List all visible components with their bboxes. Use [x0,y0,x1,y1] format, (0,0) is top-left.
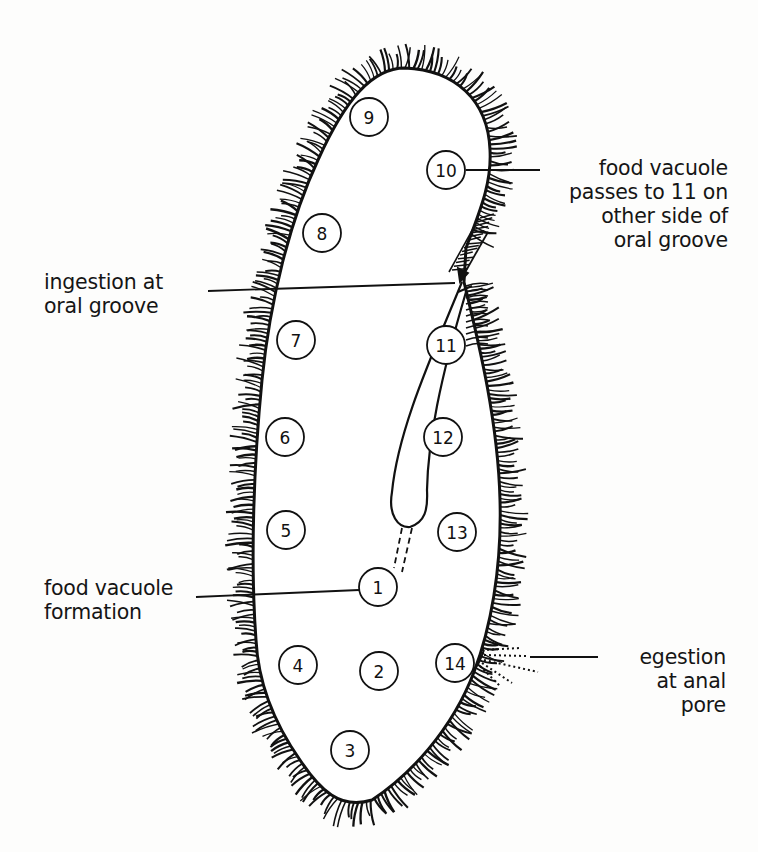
svg-text:3: 3 [345,741,356,761]
label-line: passes to 11 on [548,180,728,204]
svg-text:10: 10 [435,161,457,181]
label-line: formation [44,600,173,624]
anal-pore-egestion-icon [480,648,538,686]
label-line: ingestion at [44,270,163,294]
svg-text:8: 8 [317,224,328,244]
svg-text:1: 1 [373,578,384,598]
vacuole-5: 5 [267,511,305,549]
vacuole-3: 3 [331,731,369,769]
svg-text:9: 9 [364,108,375,128]
svg-text:6: 6 [280,428,291,448]
vacuole-10: 10 [427,151,465,189]
vacuole-1: 1 [359,568,397,606]
vacuole-2: 2 [360,652,398,690]
svg-text:14: 14 [444,654,466,674]
label-line: food vacuole [44,576,173,600]
label-line: food vacuole [548,156,728,180]
label-line: egestion [600,645,726,669]
vacuole-12: 12 [424,418,462,456]
label-food-vacuole-passes: food vacuole passes to 11 on other side … [548,156,728,252]
label-line: other side of [548,204,728,228]
svg-text:7: 7 [291,331,302,351]
label-line: pore [600,693,726,717]
svg-text:5: 5 [281,521,292,541]
vacuole-9: 9 [350,98,388,136]
label-egestion: egestion at anal pore [600,645,726,717]
vacuole-8: 8 [303,214,341,252]
vacuole-7: 7 [277,321,315,359]
vacuole-13: 13 [438,513,476,551]
svg-text:11: 11 [435,336,457,356]
svg-text:12: 12 [432,428,454,448]
label-line: at anal [600,669,726,693]
svg-text:2: 2 [374,662,385,682]
label-ingestion: ingestion at oral groove [44,270,163,318]
vacuole-4: 4 [279,646,317,684]
vacuole-11: 11 [427,326,465,364]
label-line: oral groove [44,294,163,318]
svg-text:13: 13 [446,523,468,543]
paramecium-diagram: 1234567891011121314 [0,0,758,852]
label-food-vacuole-formation: food vacuole formation [44,576,173,624]
svg-text:4: 4 [293,656,304,676]
label-line: oral groove [548,228,728,252]
vacuole-14: 14 [436,644,474,682]
vacuole-6: 6 [266,418,304,456]
